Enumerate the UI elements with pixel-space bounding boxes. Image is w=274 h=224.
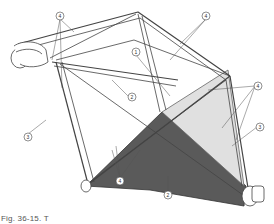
svg-text:4: 4	[119, 178, 122, 184]
svg-text:4: 4	[205, 13, 208, 19]
callout-2: 2	[128, 93, 136, 101]
callout-4: 4	[254, 82, 262, 90]
callout-4: 4	[202, 12, 210, 20]
callout-4: 4	[116, 177, 124, 185]
svg-text:3: 3	[259, 124, 262, 130]
svg-text:2: 2	[131, 94, 134, 100]
svg-text:1: 1	[135, 49, 138, 55]
callout-4: 4	[56, 12, 64, 20]
frame-assembly-diagram: 4 4 1 2 3 4 3 4 2	[0, 0, 274, 224]
svg-text:2: 2	[167, 192, 170, 198]
callout-2: 2	[164, 191, 172, 199]
tube-end-left	[81, 180, 91, 192]
callout-1: 1	[132, 48, 140, 56]
svg-text:4: 4	[257, 83, 260, 89]
callout-3: 3	[24, 133, 32, 141]
figure-caption: Fig. 36-15. T	[1, 214, 49, 223]
frame-drawing	[11, 12, 264, 206]
svg-text:3: 3	[27, 134, 30, 140]
svg-text:4: 4	[59, 13, 62, 19]
callout-3: 3	[256, 123, 264, 131]
